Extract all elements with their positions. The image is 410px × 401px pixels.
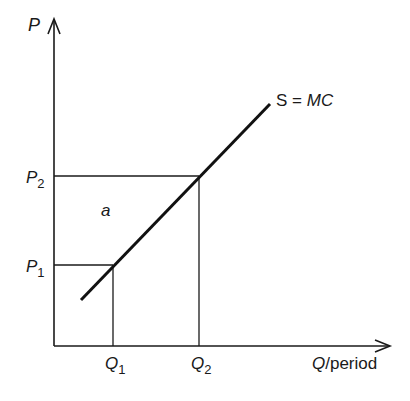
supply-curve-label: S = MC xyxy=(276,91,334,110)
x-axis-label: Q/period xyxy=(312,354,377,373)
price-label-p2: P2 xyxy=(26,168,45,191)
supply-diagram: P Q/period S = MC P2 P1 Q1 Q2 a xyxy=(0,0,410,401)
price-label-p1: P1 xyxy=(26,257,45,280)
quantity-label-q1: Q1 xyxy=(105,354,125,377)
y-axis-label: P xyxy=(28,15,40,35)
quantity-label-q2: Q2 xyxy=(191,354,211,377)
region-label-a: a xyxy=(101,201,110,220)
